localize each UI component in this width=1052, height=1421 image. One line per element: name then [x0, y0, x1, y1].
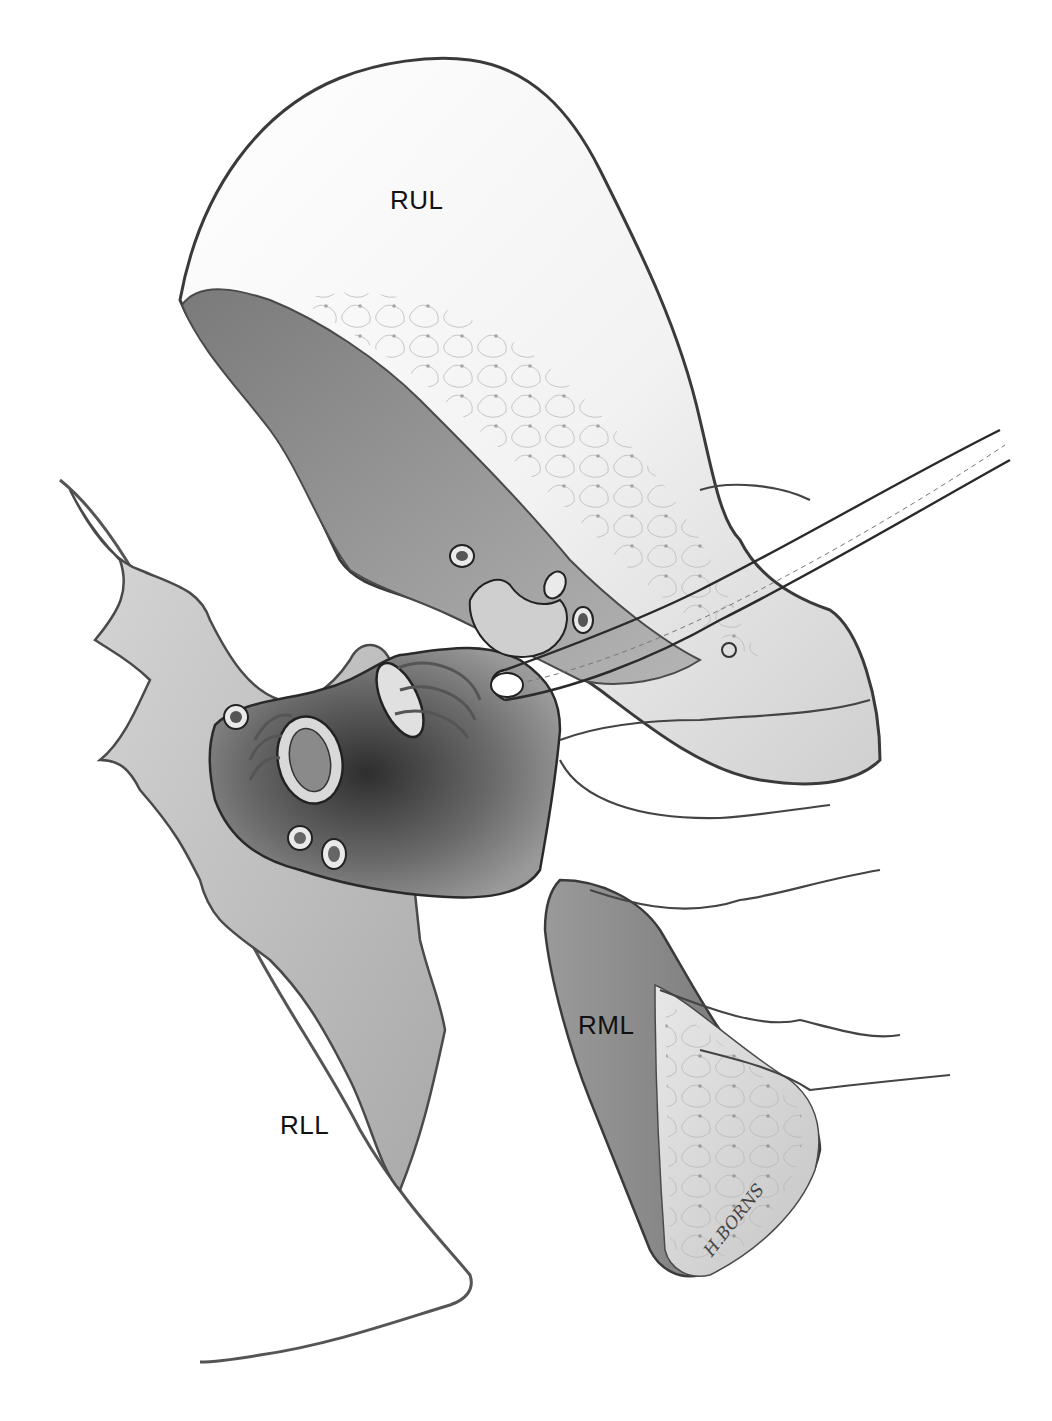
label-rul: RUL [390, 185, 444, 216]
middle-lobe [545, 880, 820, 1276]
illustration-stage: RUL RML RLL H.BORNS [0, 0, 1052, 1421]
lung-illustration [0, 0, 1052, 1421]
peanut-sponge [491, 673, 523, 697]
label-rml: RML [578, 1010, 634, 1041]
label-rll: RLL [280, 1110, 329, 1141]
